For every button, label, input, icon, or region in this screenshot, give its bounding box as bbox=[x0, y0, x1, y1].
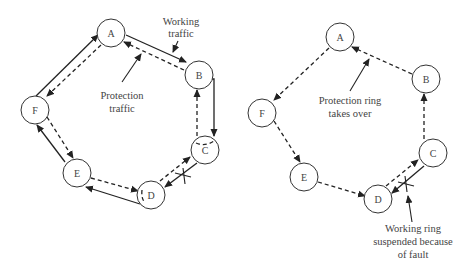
fault-pointer bbox=[408, 196, 412, 222]
edge-b-c-working bbox=[212, 79, 214, 136]
svg-text:F: F bbox=[259, 108, 265, 119]
node-e-left: E bbox=[63, 159, 91, 187]
protection-ring-pointer bbox=[350, 59, 369, 91]
working-traffic-label-line2: traffic bbox=[168, 28, 194, 39]
edge-e-d-protection bbox=[318, 182, 365, 196]
left-ring-diagram: Working traffic Protection traffic A B C… bbox=[21, 16, 219, 209]
edge-a-f-protection bbox=[274, 48, 329, 100]
edge-e-f-working bbox=[37, 125, 65, 162]
edge-f-e-protection bbox=[47, 117, 73, 158]
node-d-right: D bbox=[364, 185, 392, 213]
svg-text:E: E bbox=[74, 168, 80, 179]
node-b-right: B bbox=[412, 65, 440, 93]
svg-text:D: D bbox=[147, 190, 154, 201]
svg-text:B: B bbox=[196, 70, 203, 81]
svg-text:F: F bbox=[32, 105, 38, 116]
working-traffic-label-line1: Working bbox=[163, 16, 200, 27]
node-f-left: F bbox=[21, 96, 49, 124]
node-a-right: A bbox=[326, 23, 354, 51]
svg-text:D: D bbox=[374, 194, 381, 205]
svg-text:E: E bbox=[301, 172, 307, 183]
edge-c-d-working bbox=[392, 166, 424, 193]
fault-marker-right bbox=[398, 176, 414, 192]
protection-traffic-label-line2: traffic bbox=[109, 103, 135, 114]
svg-text:A: A bbox=[107, 28, 115, 39]
node-c-right: C bbox=[419, 139, 447, 167]
edge-b-a-protection bbox=[352, 47, 412, 74]
working-traffic-pointer bbox=[173, 41, 178, 52]
fault-label-line3: of fault bbox=[398, 249, 429, 260]
edge-e-d-protection bbox=[91, 178, 138, 191]
node-d-left: D bbox=[137, 181, 165, 209]
svg-text:B: B bbox=[423, 74, 430, 85]
fault-marker-left bbox=[175, 168, 191, 184]
protection-traffic-label-line1: Protection bbox=[100, 90, 144, 101]
svg-text:C: C bbox=[430, 148, 437, 159]
node-e-right: E bbox=[290, 163, 318, 191]
fault-label-line1: Working ring bbox=[385, 223, 442, 234]
fault-label-line2: suspended because bbox=[373, 236, 453, 247]
ring-protection-diagram: Working traffic Protection traffic A B C… bbox=[0, 0, 473, 272]
node-a-left: A bbox=[97, 19, 125, 47]
protection-ring-label-line1: Protection ring bbox=[319, 95, 382, 106]
edge-d-c-protection bbox=[386, 160, 418, 186]
svg-text:C: C bbox=[202, 145, 209, 156]
edge-a-f-protection bbox=[47, 45, 101, 96]
edge-f-a-working bbox=[36, 35, 98, 96]
edge-f-e-protection bbox=[274, 121, 300, 162]
working-ring-left bbox=[36, 35, 214, 204]
protection-ring-label-line2: takes over bbox=[329, 108, 372, 119]
node-f-right: F bbox=[248, 99, 276, 127]
svg-text:A: A bbox=[336, 32, 344, 43]
node-b-left: B bbox=[185, 61, 213, 89]
node-c-left: C bbox=[191, 136, 219, 164]
edge-d-c-protection bbox=[160, 157, 190, 181]
right-ring-diagram: Protection ring takes over Working ring … bbox=[248, 23, 453, 260]
edge-a-b-working bbox=[126, 35, 186, 62]
protection-traffic-pointer bbox=[122, 54, 141, 82]
